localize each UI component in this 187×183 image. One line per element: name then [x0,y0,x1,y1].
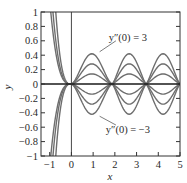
tick-marks: −101234510.80.60.40.20−0.2−0.4−0.6−0.8−1 [19,7,183,171]
x-tick-label: 4 [156,159,162,170]
x-tick-label: 0 [69,159,74,170]
x-tick-label: −1 [44,159,55,170]
x-tick-label: 2 [112,159,117,170]
y-tick-label: 0.4 [25,50,39,61]
x-tick-label: 1 [91,159,96,170]
annotation-top-label: y″(0) = 3 [109,32,147,44]
x-axis-title: x [107,170,113,182]
y-tick-label: 1 [33,7,38,18]
x-tick-label: 5 [177,159,182,170]
line-chart: −101234510.80.60.40.20−0.2−0.4−0.6−0.8−1… [0,0,187,183]
y-tick-label: 0 [33,79,38,90]
y-tick-label: −0.6 [19,122,38,133]
y-tick-label: 0.6 [25,35,38,46]
y-tick-label: −1 [27,151,38,162]
y-tick-label: 0.2 [25,64,38,75]
y-tick-label: −0.8 [19,136,38,147]
y-tick-label: −0.4 [19,107,39,118]
solution-curves [50,0,180,172]
chart-container: −101234510.80.60.40.20−0.2−0.4−0.6−0.8−1… [0,0,187,183]
annotation-bottom-label: y″(0) = −3 [106,124,150,136]
y-tick-label: −0.2 [19,93,38,104]
x-tick-label: 3 [134,159,139,170]
y-axis-title: y [1,84,13,90]
y-tick-label: 0.8 [25,21,38,32]
